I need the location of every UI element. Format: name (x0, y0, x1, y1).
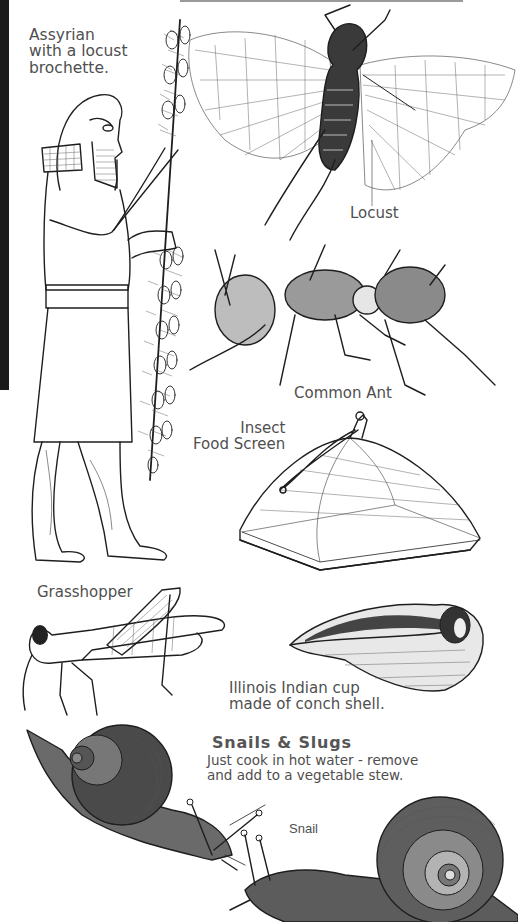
locust-caption: Locust (350, 206, 399, 222)
common-ant-illustration (185, 245, 500, 395)
left-margin-bar (0, 0, 9, 390)
assyrian-figure-illustration (20, 80, 200, 580)
assyrian-caption-line-1: Assyrian (29, 27, 128, 43)
grasshopper-illustration (22, 585, 232, 720)
snails-slugs-heading: Snails & Slugs (212, 735, 352, 752)
assyrian-caption: Assyrian with a locust brochette. (29, 27, 128, 76)
snails-instructions-line-2: and add to a vegetable stew. (207, 768, 418, 783)
top-rule-divider (180, 0, 463, 2)
conch-cup-caption: Illinois Indian cup made of conch shell. (229, 681, 385, 713)
conch-cup-caption-line-2: made of conch shell. (229, 697, 385, 713)
assyrian-caption-line-2: with a locust (29, 43, 128, 59)
grasshopper-caption: Grasshopper (37, 585, 133, 601)
common-ant-caption: Common Ant (294, 386, 392, 402)
food-screen-caption: Insect Food Screen (193, 421, 285, 453)
food-screen-caption-line-2: Food Screen (193, 437, 285, 453)
snails-instructions-line-1: Just cook in hot water - remove (207, 753, 418, 768)
assyrian-caption-line-3: brochette. (29, 60, 128, 76)
snail-right-illustration (225, 795, 518, 922)
snail-caption: Snail (289, 822, 318, 836)
illustrated-page: Assyrian with a locust brochette. Locust… (0, 0, 518, 922)
snails-slugs-instructions: Just cook in hot water - remove and add … (207, 753, 418, 783)
